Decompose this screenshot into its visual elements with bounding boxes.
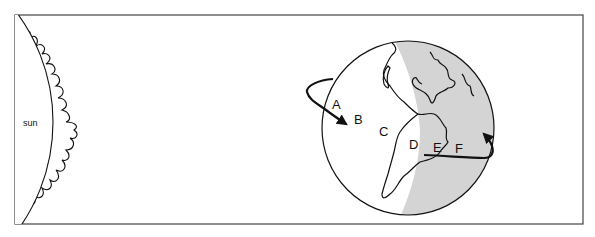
diagram-frame (15, 15, 583, 224)
sun-label: sun (23, 118, 38, 128)
label-f: F (455, 141, 463, 156)
label-d: D (409, 137, 418, 152)
diagram: sun A B C D E F (0, 0, 595, 237)
label-a: A (332, 97, 341, 112)
label-c: C (379, 124, 388, 139)
label-e: E (433, 140, 442, 155)
label-b: B (354, 112, 363, 127)
